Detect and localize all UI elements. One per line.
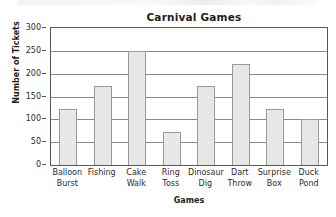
x-tick-label-line: Dig (188, 179, 223, 190)
bar-ring-toss (163, 132, 181, 165)
bar-surprise-box (266, 109, 284, 165)
gridline-100 (51, 119, 327, 120)
bar-dinosaur-dig (197, 86, 215, 165)
x-tick-label-line: Pond (292, 179, 327, 190)
y-tick-label-250: 250 (26, 45, 41, 54)
y-tick-label-0: 0 (36, 160, 41, 169)
x-tick-label-line: Cake (119, 168, 154, 179)
bar-duck-pond (301, 119, 319, 165)
y-tick-mark-0 (42, 164, 46, 165)
x-tick-label-line: Surprise (257, 168, 292, 179)
gridline-150 (51, 97, 327, 98)
x-tick-label-line: Duck (292, 168, 327, 179)
x-tick-label-line: Throw (223, 179, 258, 190)
x-tick-label-line: Dinosaur (188, 168, 223, 179)
y-tick-label-50: 50 (31, 137, 41, 146)
x-tick-label-dart-throw: DartThrow (223, 168, 258, 189)
y-axis-title: Number of Tickets (12, 3, 21, 123)
x-tick-label-balloon-burst: BalloonBurst (50, 168, 85, 189)
y-tick-mark-100 (42, 118, 46, 119)
x-axis: BalloonBurstFishingCakeWalkRingTossDinos… (50, 168, 328, 196)
gridline-250 (51, 51, 327, 52)
x-tick-label-line: Ring (154, 168, 189, 179)
x-tick-label-duck-pond: DuckPond (292, 168, 327, 189)
y-tick-label-200: 200 (26, 68, 41, 77)
x-tick-label-line: Walk (119, 179, 154, 190)
gridline-50 (51, 142, 327, 143)
bar-cake-walk (128, 51, 146, 165)
x-tick-label-surprise-box: SurpriseBox (257, 168, 292, 189)
x-axis-title: Games (50, 196, 328, 205)
y-tick-label-100: 100 (26, 114, 41, 123)
y-axis: 050100150200250300 (0, 27, 46, 166)
bar-balloon-burst (59, 109, 77, 165)
y-tick-mark-200 (42, 73, 46, 74)
scan-artifact (18, 0, 318, 5)
x-tick-label-line: Box (257, 179, 292, 190)
bar-fishing (94, 86, 112, 165)
y-tick-mark-250 (42, 50, 46, 51)
y-tick-label-300: 300 (26, 23, 41, 32)
x-tick-label-line: Dart (223, 168, 258, 179)
x-tick-label-cake-walk: CakeWalk (119, 168, 154, 189)
x-tick-label-ring-toss: RingToss (154, 168, 189, 189)
x-tick-label-line: Balloon (50, 168, 85, 179)
chart-title: Carnival Games (56, 11, 332, 23)
x-tick-label-fishing: Fishing (85, 168, 120, 179)
y-tick-mark-300 (42, 27, 46, 28)
x-tick-label-line: Burst (50, 179, 85, 190)
x-tick-label-line: Toss (154, 179, 189, 190)
bar-dart-throw (232, 64, 250, 165)
x-tick-label-line: Fishing (85, 168, 120, 179)
gridline-200 (51, 74, 327, 75)
plot-area (50, 27, 328, 166)
y-tick-mark-50 (42, 141, 46, 142)
bar-chart-figure: Carnival Games 050100150200250300 Number… (0, 0, 336, 217)
y-tick-mark-150 (42, 96, 46, 97)
y-tick-label-150: 150 (26, 91, 41, 100)
x-tick-label-dinosaur-dig: DinosaurDig (188, 168, 223, 189)
